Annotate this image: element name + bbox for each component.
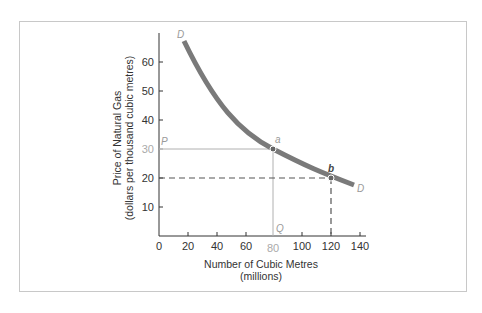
point-b-label: b [328,163,334,174]
x-axis-title: Number of Cubic Metres [204,258,318,270]
x-tick-label: 140 [351,240,369,252]
q-label: Q [276,223,284,234]
x-ticks: 0 20 40 60 80 100 120 140 [156,232,369,254]
x-tick-label: 20 [182,240,194,252]
demand-chart: 10 20 30 40 50 60 0 20 40 60 80 100 120 … [0,0,482,313]
x-tick-label: 120 [322,240,340,252]
y-tick-label: 30 [142,143,154,155]
x-axis-subtitle: (millions) [240,270,282,282]
y-tick-label: 50 [142,85,154,97]
x-tick-label: 40 [211,240,223,252]
x-tick-label: 60 [240,240,252,252]
y-tick-label: 20 [142,172,154,184]
y-ticks: 10 20 30 40 50 60 [142,56,163,213]
y-axis-subtitle: (dollars per thousand cubic metres) [123,56,135,221]
x-tick-label: 0 [156,240,162,252]
y-tick-label: 40 [142,114,154,126]
curve-label-start: D [177,29,184,40]
p-label: P [161,136,168,147]
curve-label-end: D [357,183,364,194]
y-tick-label: 10 [142,201,154,213]
point-a-label: a [275,134,281,145]
y-tick-label: 60 [142,56,154,68]
point-b [328,175,334,181]
x-tick-label-highlight: 80 [267,242,279,254]
y-axis-title: Price of Natural Gas [111,91,123,186]
x-tick-label: 100 [293,240,311,252]
point-a [270,146,276,152]
